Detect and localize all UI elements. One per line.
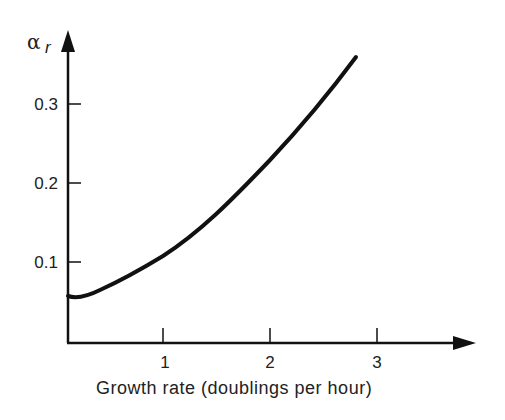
alpha-r-curve [68,57,356,297]
x-tick-label: 2 [265,353,274,372]
x-axis-title: Growth rate (doublings per hour) [96,378,372,398]
x-tick-label: 3 [372,353,381,372]
x-axis-arrow-icon [453,336,476,350]
x-tick-label: 1 [160,353,169,372]
y-axis-arrow-icon [61,30,75,52]
y-tick-label: 0.3 [34,95,58,114]
y-axis-subscript: r [45,38,52,57]
chart: 0.1 0.2 0.3 1 2 3 Growth rate (doublings… [0,0,505,420]
y-tick-label: 0.1 [34,253,58,272]
y-tick-label: 0.2 [34,174,58,193]
y-axis-symbol: α [27,30,41,54]
